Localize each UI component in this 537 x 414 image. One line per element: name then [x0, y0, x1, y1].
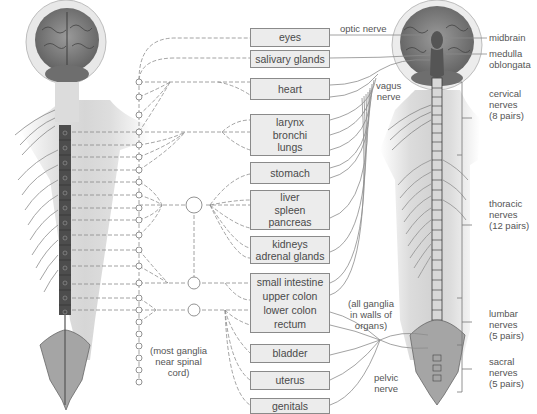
organ-label: upper colon — [263, 289, 318, 303]
organ-box-stomach: stomach — [250, 162, 330, 184]
organ-label: bladder — [272, 347, 307, 360]
lumbar-nerves-label: lumbar nerves (5 pairs) — [489, 308, 524, 341]
organ-label: eyes — [279, 31, 301, 44]
organ-box-eyes: eyes — [250, 28, 330, 47]
sympathetic-ganglia-note: (most ganglia near spinal cord) — [150, 345, 207, 378]
midbrain-label: midbrain — [489, 32, 525, 43]
organ-label: adrenal glands — [256, 250, 325, 263]
autonomic-nervous-system-diagram: eyes salivary glands heart larynx bronch… — [0, 0, 537, 414]
left-figure-sympathetic — [15, 0, 150, 410]
organ-box-heart: heart — [250, 78, 330, 100]
vagus-nerve-label: vagus nerve — [376, 80, 401, 102]
organ-box-lungs: larynx bronchi lungs — [250, 114, 330, 156]
organ-box-kidneys-adrenal: kidneys adrenal glands — [250, 236, 330, 264]
parasympathetic-ganglia-note: (all ganglia in walls of organs) — [348, 298, 394, 331]
organ-label: pancreas — [268, 216, 311, 229]
organ-label: small intestine — [257, 275, 324, 289]
organ-label: stomach — [270, 167, 310, 180]
organ-label: liver — [280, 191, 299, 204]
organ-label: bronchi — [273, 129, 307, 142]
pelvic-nerve-label: pelvic nerve — [374, 372, 398, 394]
organ-label: genitals — [272, 400, 308, 413]
organ-label: rectum — [274, 317, 306, 331]
organ-label: heart — [278, 83, 302, 96]
organ-label: salivary glands — [255, 53, 324, 66]
medulla-oblongata-label: medulla oblongata — [489, 48, 531, 70]
organ-label: lower colon — [263, 303, 316, 317]
organ-label: kidneys — [272, 238, 308, 251]
organ-label: lungs — [277, 141, 302, 154]
organ-label: uterus — [275, 374, 304, 387]
sacral-nerves-label: sacral nerves (5 pairs) — [489, 356, 524, 389]
organ-box-intestine-colon-rectum: small intestine upper colon lower colon … — [250, 273, 330, 333]
optic-nerve-label: optic nerve — [340, 23, 386, 34]
organ-box-uterus: uterus — [250, 371, 330, 390]
organ-box-salivary-glands: salivary glands — [250, 50, 330, 68]
thoracic-nerves-label: thoracic nerves (12 pairs) — [489, 198, 529, 231]
cervical-nerves-label: cervical nerves (8 pairs) — [489, 88, 524, 121]
organ-box-bladder: bladder — [250, 344, 330, 363]
right-figure-parasympathetic — [380, 0, 482, 405]
organ-box-liver-spleen-pancreas: liver spleen pancreas — [250, 190, 330, 230]
organ-label: spleen — [275, 204, 306, 217]
organ-label: larynx — [276, 116, 304, 129]
organ-box-genitals: genitals — [250, 398, 330, 414]
